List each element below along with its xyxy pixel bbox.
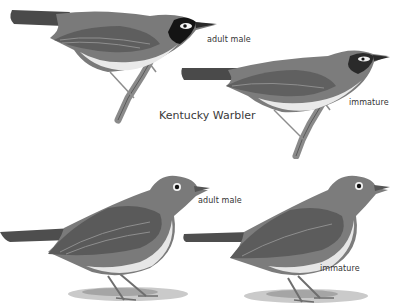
plate-title: Kentucky Warbler — [159, 109, 256, 122]
label-bottom-right: immature — [320, 264, 360, 273]
field-guide-plate: adult male immature Kentucky Warbler adu… — [0, 0, 394, 308]
label-top-left: adult male — [207, 35, 251, 44]
label-bottom-left: adult male — [198, 196, 242, 205]
label-top-right: immature — [349, 98, 389, 107]
bird-illustration-bottom-right — [180, 172, 394, 308]
